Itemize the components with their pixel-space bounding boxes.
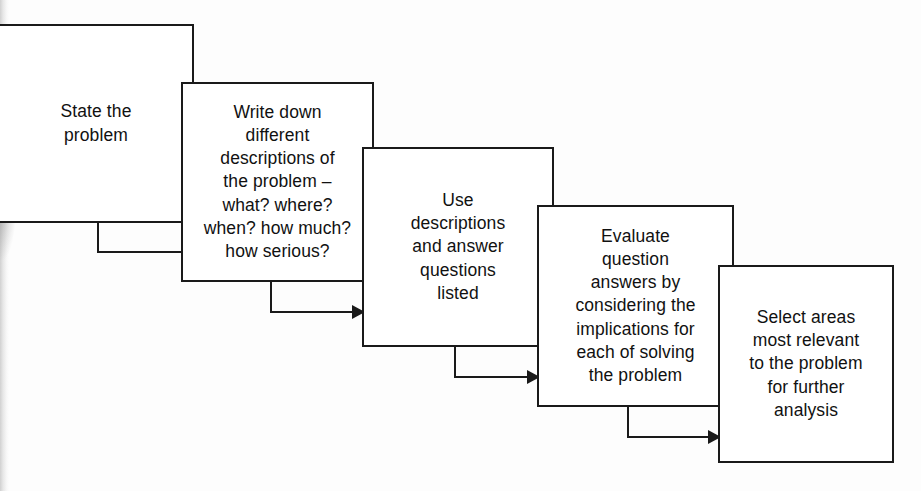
flow-step-4-label: Evaluate question answers by considering… (543, 225, 728, 387)
flow-step-3-label: Use descriptions and answer questions li… (368, 189, 548, 304)
flowchart-diagram: State the problem Write down different d… (0, 0, 921, 491)
flow-step-1-label: State the problem (4, 100, 188, 146)
flow-step-2[interactable]: Write down different descriptions of the… (181, 82, 374, 282)
flow-step-5[interactable]: Select areas most relevant to the proble… (718, 265, 894, 463)
flow-step-2-label: Write down different descriptions of the… (187, 101, 368, 263)
flow-step-5-label: Select areas most relevant to the proble… (724, 306, 888, 421)
flow-step-1[interactable]: State the problem (0, 24, 194, 223)
flow-step-3[interactable]: Use descriptions and answer questions li… (362, 147, 554, 347)
flow-step-4[interactable]: Evaluate question answers by considering… (537, 205, 734, 407)
